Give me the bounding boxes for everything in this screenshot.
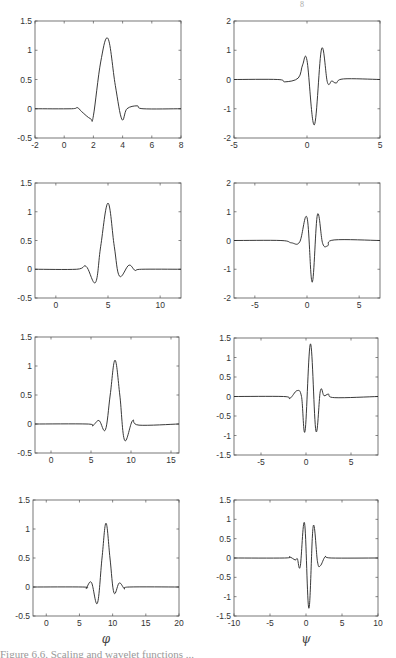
x-tick-label: 0 — [305, 140, 310, 150]
y-tick-label: 0 — [27, 104, 32, 114]
y-tick-label: 0.5 — [219, 372, 231, 382]
y-tick-label: 0 — [226, 236, 231, 246]
curve — [234, 214, 380, 283]
y-tick-label: 1.5 — [219, 333, 231, 343]
y-tick-label: 0.5 — [20, 390, 32, 400]
x-tick-label: 0 — [304, 618, 309, 628]
x-tick-label: 10 — [373, 618, 383, 628]
y-tick-label: -1 — [223, 104, 231, 114]
x-axis-label: ψ — [301, 632, 311, 646]
x-tick-label: -5 — [230, 140, 238, 150]
y-tick-label: -0.5 — [17, 133, 32, 143]
y-tick-label: -0.5 — [17, 293, 32, 303]
y-tick-label: 1.5 — [20, 332, 32, 342]
y-tick-label: 0 — [25, 582, 30, 592]
y-tick-label: -0.5 — [17, 448, 32, 458]
x-tick-label: 15 — [166, 455, 176, 465]
y-tick-label: 1 — [25, 524, 30, 534]
x-tick-label: 0 — [44, 618, 49, 628]
x-tick-label: 15 — [141, 618, 151, 628]
x-tick-label: 6 — [149, 140, 154, 150]
y-tick-label: 1 — [226, 353, 231, 363]
x-tick-label: 5 — [349, 457, 354, 467]
curve — [35, 38, 181, 122]
x-tick-label: 5 — [340, 618, 345, 628]
y-tick-label: 0.5 — [18, 553, 30, 563]
y-tick-label: -1 — [223, 592, 231, 602]
y-tick-label: 1 — [226, 207, 231, 217]
x-tick-label: 0 — [53, 300, 58, 310]
y-tick-label: 2 — [226, 178, 231, 188]
x-tick-label: 2 — [91, 140, 96, 150]
axes-frame — [35, 337, 179, 453]
y-tick-label: 0 — [226, 392, 231, 402]
axes-frame — [35, 183, 181, 298]
x-tick-label: 5 — [89, 455, 94, 465]
x-tick-label: 0 — [62, 140, 67, 150]
y-tick-label: 1 — [27, 45, 32, 55]
x-tick-label: -5 — [251, 300, 259, 310]
y-tick-label: 1.5 — [20, 178, 32, 188]
y-tick-label: 0 — [226, 75, 231, 85]
curve — [234, 522, 378, 608]
y-tick-label: -1 — [223, 431, 231, 441]
y-tick-label: 1 — [226, 45, 231, 55]
plot-panel-row4-right: -10-50510-1.5-1-0.500.511.5ψ — [216, 495, 383, 646]
y-tick-label: 1 — [27, 361, 32, 371]
x-tick-label: 5 — [357, 300, 362, 310]
x-tick-label: 10 — [155, 300, 165, 310]
x-tick-label: -5 — [257, 457, 265, 467]
y-tick-label: -1.5 — [216, 611, 231, 621]
x-tick-label: -5 — [266, 618, 274, 628]
y-tick-label: -0.5 — [216, 572, 231, 582]
y-tick-label: 0.5 — [20, 236, 32, 246]
y-tick-label: 1.5 — [20, 16, 32, 26]
x-tick-label: 10 — [126, 455, 136, 465]
y-tick-label: -1.5 — [216, 450, 231, 460]
x-tick-label: -2 — [31, 140, 39, 150]
plot-panel-row2-right: -505-2-1012 — [223, 178, 380, 310]
curve — [35, 203, 181, 283]
x-tick-label: 8 — [179, 140, 184, 150]
curve — [35, 360, 179, 441]
plot-panel-row1-right: -505-2-1012 — [223, 16, 382, 150]
y-tick-label: 1.5 — [18, 495, 30, 505]
figure-caption: Figure 6.6. Scaling and wavelet function… — [0, 650, 396, 658]
y-tick-label: 1 — [27, 207, 32, 217]
plot-panel-row1-left: -202468-0.500.511.5 — [17, 16, 183, 150]
y-tick-label: 0.5 — [20, 75, 32, 85]
y-tick-label: 1 — [226, 514, 231, 524]
y-tick-label: 1.5 — [219, 495, 231, 505]
x-tick-label: 0 — [49, 455, 54, 465]
plot-panel-row3-left: 051015-0.500.511.5 — [17, 332, 179, 465]
curve — [33, 523, 179, 604]
x-tick-label: 0 — [305, 300, 310, 310]
x-tick-label: 0 — [304, 457, 309, 467]
axes-frame — [33, 500, 179, 616]
y-tick-label: 0.5 — [219, 534, 231, 544]
y-tick-label: -0.5 — [216, 411, 231, 421]
plot-panel-row3-right: -505-1.5-1-0.500.511.5 — [216, 333, 378, 467]
plot-panel-row4-left: 05101520-0.500.511.5φ — [15, 495, 184, 646]
x-tick-label: 5 — [378, 140, 383, 150]
curve — [234, 48, 380, 125]
y-tick-label: 0 — [27, 264, 32, 274]
x-tick-label: 5 — [106, 300, 111, 310]
x-axis-label: φ — [102, 632, 111, 646]
plot-panel-row2-left: 0510-0.500.511.5 — [17, 178, 181, 310]
wavelet-figure: -202468-0.500.511.5-505-2-10120510-0.500… — [0, 0, 396, 658]
curve — [234, 344, 378, 433]
x-tick-label: 5 — [77, 618, 82, 628]
y-tick-label: -1 — [223, 264, 231, 274]
y-tick-label: 0 — [27, 419, 32, 429]
y-tick-label: -0.5 — [15, 611, 30, 621]
x-tick-label: 10 — [108, 618, 118, 628]
y-tick-label: -2 — [223, 293, 231, 303]
y-tick-label: -2 — [223, 133, 231, 143]
y-tick-label: 0 — [226, 553, 231, 563]
x-tick-label: 20 — [174, 618, 184, 628]
x-tick-label: 4 — [120, 140, 125, 150]
y-tick-label: 2 — [226, 16, 231, 26]
